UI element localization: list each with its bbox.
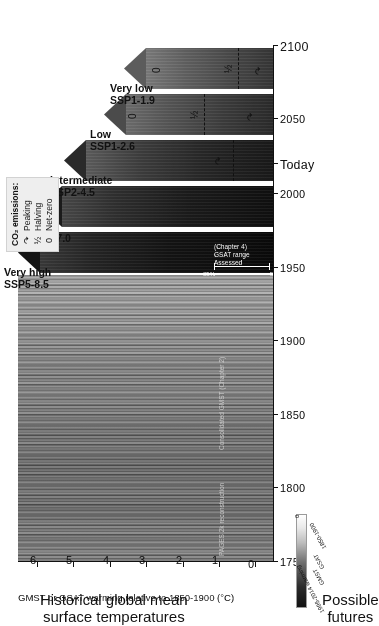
legend-label-peaking: Peaking [22, 200, 32, 231]
colorbar-tick-label: 0 [294, 515, 300, 518]
scenario-code-ssp119: SSP1-1.9 [110, 94, 155, 106]
scenario-title-ssp119: Very low SSP1-1.9 [110, 82, 155, 107]
assessed-range-label-line3: (Chapter 4) [214, 243, 247, 250]
percentile-95-label: 95% [203, 271, 215, 277]
halving-marker-ssp119: ½ [224, 65, 234, 73]
halving-dash-ssp119 [238, 48, 239, 89]
y-tick [146, 562, 147, 567]
colorbar-label-gmst: GMST [312, 568, 325, 586]
scenario-title-ssp245: Intermediate SSP2-4.5 [50, 174, 112, 199]
x-tick-label-today: Today [280, 158, 314, 172]
y-tick-label-2: -2 [172, 554, 182, 566]
x-tick [273, 267, 278, 268]
halving-dash-ssp126 [204, 94, 205, 135]
y-tick-label-3: -3 [135, 554, 145, 566]
x-axis-line [273, 46, 274, 562]
colorbar-label-gsat: GSAT [313, 553, 326, 570]
group-caption-historical-line2: surface temperatures [43, 608, 185, 625]
x-tick [273, 340, 278, 341]
x-tick-label-2050: 2050 [280, 113, 305, 125]
x-tick [273, 487, 278, 488]
x-tick-label-1900: 1900 [280, 335, 305, 347]
y-tick [37, 562, 38, 567]
x-tick-label-1950: 1950 [280, 262, 305, 274]
source-label-reconstruction: PAGES 2k reconstruction [218, 483, 225, 556]
group-caption-historical: Historical global mean surface temperatu… [40, 592, 188, 626]
x-tick-label-1850: 1850 [280, 409, 305, 421]
peaking-marker-ssp126: ↷ [246, 113, 256, 121]
legend-label-netzero: Net-zero [44, 198, 54, 231]
scenario-name-ssp126: Low [90, 128, 111, 140]
x-tick [273, 118, 278, 119]
y-tick [255, 562, 256, 567]
x-tick [273, 414, 278, 415]
x-tick [273, 193, 278, 194]
x-tick-label-2100: 2100 [280, 40, 309, 54]
peaking-marker-ssp119: ↷ [254, 67, 264, 75]
historical-stripes-texture [18, 275, 273, 562]
historical-stripes-panel: PAGES 2k reconstruction Consolidated GMS… [18, 275, 273, 562]
group-caption-futures-line2: futures [327, 608, 373, 625]
colorbar-legend [296, 514, 307, 608]
y-tick [73, 562, 74, 567]
group-caption-futures: Possible futures [322, 592, 379, 626]
assessed-range-tick-top [214, 263, 215, 270]
group-caption-historical-line1: Historical global mean [40, 591, 188, 608]
scenario-code-ssp126: SSP1-2.6 [90, 140, 135, 152]
peaking-marker-ssp245: ↷ [214, 157, 224, 165]
legend-item-netzero: 0 Net-zero [44, 183, 54, 246]
scenario-code-ssp585: SSP5-8.5 [4, 278, 49, 290]
halving-icon: ½ [34, 235, 43, 246]
x-tick [273, 45, 278, 46]
source-label-observations: Consolidated GMST (Chapter 2) [218, 357, 225, 450]
x-tick [273, 561, 278, 562]
netzero-icon: 0 [45, 235, 54, 246]
group-caption-futures-line1: Possible [322, 591, 379, 608]
assessed-range-label-line2: GSAT range [214, 251, 250, 258]
y-tick-label-0: 0 [248, 558, 254, 570]
legend-item-halving: ½ Halving [33, 183, 43, 246]
assessed-range-bar [214, 266, 270, 267]
x-tick [273, 163, 278, 164]
plot-area: PAGES 2k reconstruction Consolidated GMS… [18, 46, 273, 562]
y-tick [219, 562, 220, 567]
assessed-range-tick-bottom [269, 263, 270, 270]
colorbar-label-baseline: 1850-1900 [309, 522, 328, 550]
legend-item-peaking: ↷ Peaking [22, 183, 32, 246]
halving-marker-ssp126: ½ [190, 111, 200, 119]
x-tick-label-1800: 1800 [280, 482, 305, 494]
netzero-marker-ssp119: 0 [152, 67, 162, 73]
y-tick-label-4: -4 [99, 554, 109, 566]
peaking-icon: ↷ [23, 235, 32, 246]
peaking-dash-ssp245 [233, 140, 234, 181]
netzero-marker-ssp126: 0 [128, 113, 138, 119]
scenario-name-ssp119: Very low [110, 82, 153, 94]
y-tick-label-1: -1 [208, 554, 218, 566]
y-tick [110, 562, 111, 567]
co2-emissions-legend: CO₂ emissions: ↷ Peaking ½ Halving 0 Net… [6, 177, 59, 252]
legend-label-halving: Halving [33, 203, 43, 231]
scenario-name-ssp585: Very high [4, 266, 51, 278]
y-tick [183, 562, 184, 567]
scenario-name-ssp245: Intermediate [50, 174, 112, 186]
scenario-title-ssp585: Very high SSP5-8.5 [4, 266, 51, 291]
y-tick-label-6: -6 [26, 554, 36, 566]
x-tick-label-2000: 2000 [280, 188, 305, 200]
y-tick-label-5: -5 [62, 554, 72, 566]
scenario-title-ssp126: Low SSP1-2.6 [90, 128, 135, 153]
co2-emissions-legend-title: CO₂ emissions: [10, 183, 20, 246]
